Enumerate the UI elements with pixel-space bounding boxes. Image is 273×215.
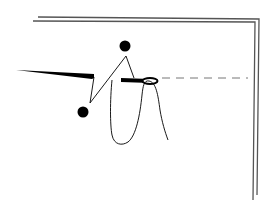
dot-bottom	[78, 107, 89, 118]
dot-top	[120, 41, 131, 52]
squiggle-line	[111, 80, 169, 144]
left-wedge	[16, 70, 94, 79]
frame-line-outer	[38, 17, 259, 195]
drawing-canvas	[0, 0, 273, 215]
double-frame	[33, 17, 259, 200]
frame-line-inner	[33, 21, 255, 200]
